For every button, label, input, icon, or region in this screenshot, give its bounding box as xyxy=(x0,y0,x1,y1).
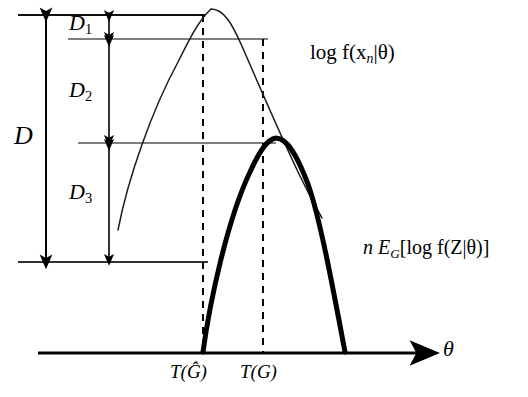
label-D2: D2 xyxy=(69,79,92,104)
label-D1-subscript: 1 xyxy=(85,21,92,37)
label-axis-theta: θ xyxy=(443,338,454,360)
tick-label-T-G: T(G) xyxy=(240,362,277,381)
label-D3-base: D xyxy=(69,179,85,204)
label-D2-subscript: 2 xyxy=(85,88,92,104)
reference-lines xyxy=(18,15,276,262)
tick-label-T-Ghat: T(Ĝ) xyxy=(170,362,207,381)
figure-canvas: D D1 D2 D3 log f(xn|θ) n EG[log f(Z|θ)] … xyxy=(0,0,528,397)
label-D1-base: D xyxy=(69,10,85,35)
label-nEG-subscript: G xyxy=(390,246,400,261)
curve-nEG-log-f-Z xyxy=(203,138,345,352)
label-nEG-tail: [log f(Z|θ)] xyxy=(400,236,490,258)
label-D2-base: D xyxy=(69,77,85,102)
label-D1: D1 xyxy=(69,12,92,37)
label-log-f-xn: log f(xn|θ) xyxy=(310,42,395,66)
label-D: D xyxy=(14,123,33,149)
label-D3: D3 xyxy=(69,181,92,206)
label-log-f-xn-subscript: n xyxy=(367,51,374,66)
curve-log-f-xn xyxy=(118,9,322,230)
label-nEG-log-f-Z: n EG[log f(Z|θ)] xyxy=(363,237,489,260)
label-D3-subscript: 3 xyxy=(85,190,92,206)
label-log-f-xn-tail: |θ) xyxy=(374,40,395,64)
label-log-f-xn-head: log f(x xyxy=(310,40,367,64)
label-nEG-head: n E xyxy=(363,236,390,258)
